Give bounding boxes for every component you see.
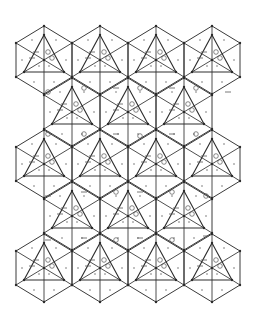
vertex-point [127,215,129,217]
vertex-point [239,250,241,252]
vertex-point [127,190,129,192]
dot-mark [87,247,88,248]
vertex-point [71,284,73,286]
vertex-point [15,76,17,78]
vertex-point [43,138,45,140]
dot-mark [94,169,95,170]
vertex-point [71,250,73,252]
vertex-point [99,233,101,235]
dot-mark [49,215,50,216]
dot-mark [115,91,116,92]
dot-mark [31,247,32,248]
dot-mark [143,247,144,248]
dot-mark [177,59,178,60]
vertex-point [183,190,185,192]
vertex-point [43,301,45,303]
vertex-point [63,71,65,73]
dot-mark [195,91,196,92]
vertex-point [63,279,65,281]
dot-mark [21,267,22,268]
vertex-point [43,233,45,235]
vertex-point [127,77,129,79]
dot-mark [59,195,60,196]
vertex-point [203,123,205,125]
dot-mark [221,81,222,82]
dot-mark [65,267,66,268]
dot-mark [201,185,202,186]
vertex-point [71,190,73,192]
vertex-point [43,129,45,131]
dot-mark [66,221,67,222]
vertex-point [155,233,157,235]
dot-mark [171,195,172,196]
vertex-point [15,180,17,182]
dot-mark [77,267,78,268]
vertex-point [155,242,157,244]
dot-mark [53,185,54,186]
dot-mark [189,267,190,268]
dot-mark [178,117,179,118]
dot-mark [83,195,84,196]
vertex-point [155,163,157,165]
dot-mark [132,117,133,118]
vertex-point [239,284,241,286]
dot-mark [111,143,112,144]
vertex-point [239,76,241,78]
dot-mark [205,111,206,112]
dot-mark [149,111,150,112]
vertex-point [99,138,101,140]
vertex-point [71,111,73,113]
vertex-point [155,198,157,200]
vertex-point [71,181,73,183]
dot-mark [122,117,123,118]
dot-mark [48,169,49,170]
dot-mark [165,81,166,82]
dot-mark [109,289,110,290]
dot-mark [121,163,122,164]
vertex-point [211,198,213,200]
vertex-point [99,34,101,36]
vertex-point [211,34,213,36]
dot-mark [216,273,217,274]
dot-mark [89,81,90,82]
dot-mark [206,273,207,274]
dot-mark [223,39,224,40]
dot-mark [145,185,146,186]
dot-mark [105,111,106,112]
dot-mark [139,91,140,92]
vertex-point [15,42,17,44]
dot-mark [167,143,168,144]
vertex-point [127,181,129,183]
vertex-point [71,77,73,79]
dot-mark [77,163,78,164]
dot-mark [149,215,150,216]
vertex-point [71,42,73,44]
vertex-point [239,180,241,182]
vertex-point [99,25,101,27]
vertex-point [211,59,213,61]
vertex-point [231,279,233,281]
vertex-point [183,284,185,286]
vertex-point [127,250,129,252]
dot-mark [150,273,151,274]
dot-mark [199,247,200,248]
dot-mark [61,237,62,238]
vertex-point [175,175,177,177]
vertex-point [183,77,185,79]
dot-mark [167,247,168,248]
dot-mark [76,221,77,222]
dot-mark [188,221,189,222]
dot-mark [193,237,194,238]
dot-mark [111,39,112,40]
dot-mark [55,143,56,144]
dot-mark [38,169,39,170]
dot-mark [139,195,140,196]
vertex-point [183,111,185,113]
vertex-point [107,227,109,229]
vertex-point [155,34,157,36]
vertex-point [43,59,45,61]
dot-mark [150,65,151,66]
dot-mark [89,185,90,186]
dot-mark [77,59,78,60]
vertex-point [99,163,101,165]
